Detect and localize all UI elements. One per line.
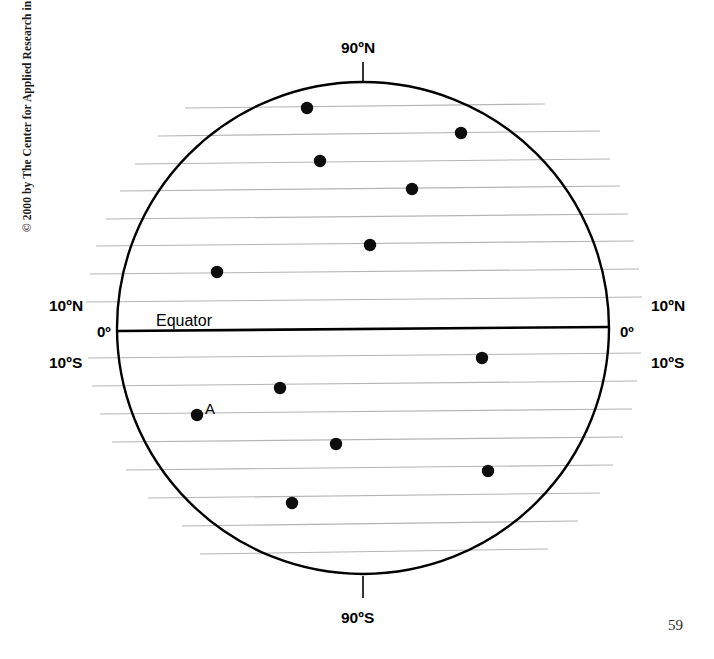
data-point bbox=[482, 465, 494, 477]
latitude-line bbox=[135, 159, 610, 164]
label-latitude-10s-left: 10ºS bbox=[49, 355, 82, 371]
label-latitude-0-right: 0º bbox=[620, 324, 634, 339]
latitude-line bbox=[158, 131, 600, 136]
data-point-a bbox=[191, 409, 203, 421]
data-point bbox=[314, 155, 326, 167]
data-point bbox=[364, 239, 376, 251]
label-point-a: A bbox=[205, 401, 215, 416]
latitude-line bbox=[120, 186, 620, 191]
data-point bbox=[330, 438, 342, 450]
data-point bbox=[406, 183, 418, 195]
data-point bbox=[274, 382, 286, 394]
latitude-line bbox=[148, 493, 600, 498]
worksheet-page: © 2000 by The Center for Applied Researc… bbox=[0, 0, 714, 659]
latitude-line bbox=[88, 353, 641, 358]
latitude-line bbox=[185, 104, 545, 108]
label-latitude-0-left: 0º bbox=[97, 324, 111, 339]
latitude-line bbox=[200, 549, 548, 554]
label-south-pole: 90ºS bbox=[341, 610, 374, 626]
label-latitude-10n-right: 10ºN bbox=[651, 298, 685, 314]
label-latitude-10s-right: 10ºS bbox=[651, 355, 684, 371]
page-number: 59 bbox=[668, 617, 683, 634]
latitude-line bbox=[90, 269, 639, 274]
data-point bbox=[286, 497, 298, 509]
data-point bbox=[476, 352, 488, 364]
data-point bbox=[211, 266, 223, 278]
latitude-line bbox=[126, 465, 613, 470]
data-point bbox=[301, 102, 313, 114]
latitude-line bbox=[112, 437, 623, 442]
label-north-pole: 90ºN bbox=[341, 40, 375, 56]
latitude-line bbox=[100, 409, 632, 414]
latitude-line bbox=[106, 214, 628, 219]
label-latitude-10n-left: 10ºN bbox=[49, 298, 83, 314]
label-equator: Equator bbox=[156, 313, 212, 329]
latitude-line bbox=[92, 381, 637, 386]
latitude-line bbox=[182, 521, 578, 526]
data-point bbox=[455, 127, 467, 139]
latitude-line bbox=[86, 297, 642, 302]
